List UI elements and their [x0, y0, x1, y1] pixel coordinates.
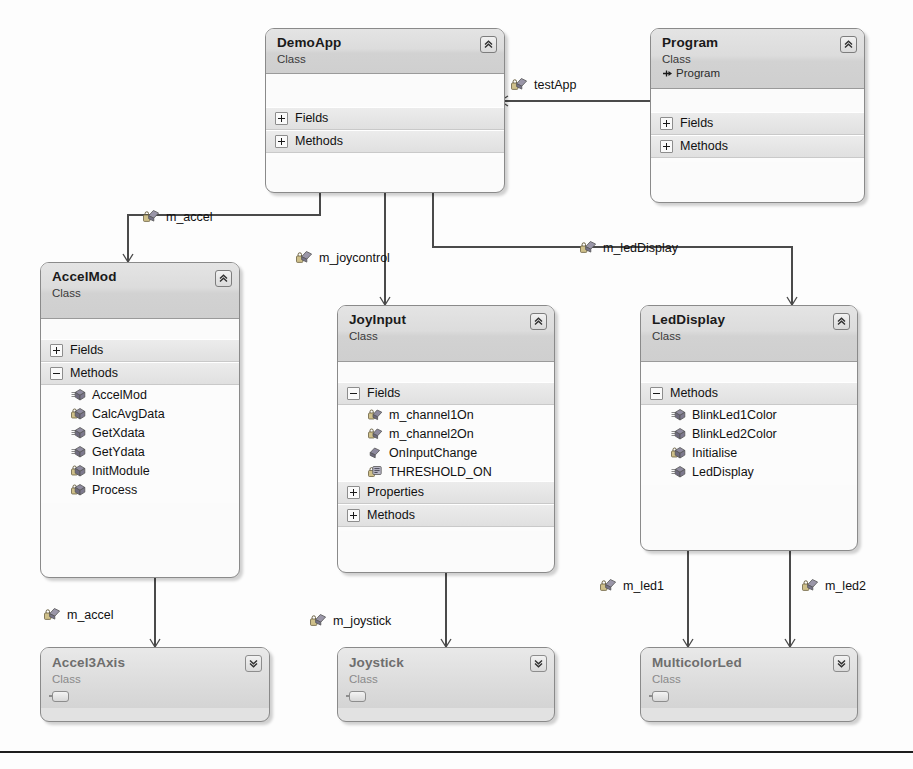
chevron-double-up-icon[interactable]	[480, 36, 497, 53]
class-box-accel3axis[interactable]: Accel3Axis Class	[40, 647, 270, 722]
chevron-double-down-icon[interactable]	[245, 655, 262, 672]
chevron-double-up-icon[interactable]	[215, 270, 232, 287]
member-row[interactable]: CalcAvgData	[41, 404, 239, 423]
class-header-leddisplay[interactable]: LedDisplay Class	[641, 306, 857, 362]
class-base-program: Program	[662, 66, 855, 81]
compartment-label: Methods	[70, 366, 118, 381]
chevron-double-down-icon[interactable]	[833, 655, 850, 672]
compartment-fields-program[interactable]: Fields	[651, 112, 864, 135]
association-label-m-accel-top[interactable]: m_accel	[143, 209, 214, 224]
private-field-icon	[368, 427, 383, 441]
private-method-icon	[71, 483, 86, 497]
class-name-leddisplay: LedDisplay	[652, 312, 848, 328]
plus-icon[interactable]	[50, 344, 63, 357]
compartment-methods-joyinput[interactable]: Methods	[338, 504, 554, 527]
compartment-label: Fields	[367, 386, 400, 401]
chevron-double-up-icon[interactable]	[833, 313, 850, 330]
association-label-text: m_accel	[165, 210, 214, 224]
class-header-demoapp[interactable]: DemoApp Class	[266, 29, 504, 74]
association-label-text: m_joycontrol	[318, 251, 391, 265]
member-row[interactable]: m_channel1On	[338, 405, 554, 424]
class-box-multicolorled[interactable]: MulticolorLed Class	[640, 647, 858, 722]
class-name-joyinput: JoyInput	[349, 312, 545, 328]
compartment-label: Methods	[680, 139, 728, 154]
class-header-accel3axis[interactable]: Accel3Axis Class	[41, 648, 269, 708]
hidden-members-indicator-icon[interactable]	[52, 691, 69, 702]
class-name-multicolorled: MulticolorLed	[652, 655, 848, 671]
compartment-fields-accelmod[interactable]: Fields	[41, 339, 239, 362]
member-label: Process	[92, 482, 137, 498]
association-label-m-accel-bottom[interactable]: m_accel	[44, 607, 115, 622]
member-row[interactable]: Process	[41, 480, 239, 499]
association-label-text: m_joystick	[332, 614, 392, 628]
class-header-multicolorled[interactable]: MulticolorLed Class	[641, 648, 857, 708]
class-kind-accelmod: Class	[52, 286, 230, 300]
compartment-fields-demoapp[interactable]: Fields	[266, 107, 504, 130]
association-label-text: m_accel	[66, 608, 115, 622]
association-label-m-led1[interactable]: m_led1	[600, 578, 665, 593]
chevron-double-up-icon[interactable]	[530, 313, 547, 330]
hidden-members-indicator-icon[interactable]	[652, 691, 669, 702]
class-box-joyinput[interactable]: JoyInput Class Fields	[337, 305, 555, 573]
class-box-accelmod[interactable]: AccelMod Class Fields Methods	[40, 262, 240, 578]
member-row[interactable]: InitModule	[41, 461, 239, 480]
compartment-fields-joyinput[interactable]: Fields	[338, 382, 554, 405]
public-method-icon	[671, 427, 686, 441]
member-row[interactable]: GetXdata	[41, 423, 239, 442]
minus-icon[interactable]	[50, 367, 63, 380]
member-label: m_channel2On	[389, 426, 474, 442]
member-label: BlinkLed2Color	[692, 426, 777, 442]
private-field-icon	[580, 240, 597, 255]
member-row[interactable]: LedDisplay	[641, 462, 857, 481]
compartment-methods-demoapp[interactable]: Methods	[266, 130, 504, 153]
class-header-joystick[interactable]: Joystick Class	[338, 648, 554, 708]
compartment-methods-leddisplay[interactable]: Methods	[641, 382, 857, 405]
association-label-m-led2[interactable]: m_led2	[802, 578, 867, 593]
member-label: GetYdata	[92, 444, 145, 460]
class-name-demoapp: DemoApp	[277, 35, 495, 51]
class-header-joyinput[interactable]: JoyInput Class	[338, 306, 554, 362]
class-box-joystick[interactable]: Joystick Class	[337, 647, 555, 722]
member-row[interactable]: m_channel2On	[338, 424, 554, 443]
class-box-leddisplay[interactable]: LedDisplay Class Methods	[640, 305, 858, 551]
hidden-members-indicator-icon[interactable]	[349, 691, 366, 702]
member-row[interactable]: GetYdata	[41, 442, 239, 461]
class-box-program[interactable]: Program Class Program Fields	[650, 28, 865, 203]
member-row[interactable]: THRESHOLD_ON	[338, 462, 554, 481]
public-method-icon	[71, 388, 86, 402]
compartment-properties-joyinput[interactable]: Properties	[338, 481, 554, 504]
plus-icon[interactable]	[660, 140, 673, 153]
public-method-icon	[71, 426, 86, 440]
class-diagram-canvas[interactable]: DemoApp Class Fields Methods Program Cla…	[0, 0, 913, 769]
public-method-icon	[671, 465, 686, 479]
member-label: BlinkLed1Color	[692, 407, 777, 423]
plus-icon[interactable]	[347, 509, 360, 522]
compartment-methods-accelmod[interactable]: Methods	[41, 362, 239, 385]
plus-icon[interactable]	[347, 486, 360, 499]
association-label-m-joystick[interactable]: m_joystick	[310, 613, 392, 628]
minus-icon[interactable]	[347, 387, 360, 400]
association-label-m-leddisplay[interactable]: m_ledDisplay	[580, 240, 679, 255]
minus-icon[interactable]	[650, 387, 663, 400]
member-label: Initialise	[692, 445, 737, 461]
compartment-methods-program[interactable]: Methods	[651, 135, 864, 158]
member-row[interactable]: AccelMod	[41, 385, 239, 404]
plus-icon[interactable]	[660, 117, 673, 130]
class-box-demoapp[interactable]: DemoApp Class Fields Methods	[265, 28, 505, 193]
chevron-double-up-icon[interactable]	[840, 36, 857, 53]
class-header-program[interactable]: Program Class Program	[651, 29, 864, 89]
member-row[interactable]: Initialise	[641, 443, 857, 462]
member-row[interactable]: BlinkLed2Color	[641, 424, 857, 443]
plus-icon[interactable]	[275, 112, 288, 125]
class-header-accelmod[interactable]: AccelMod Class	[41, 263, 239, 319]
class-kind-multicolorled: Class	[652, 672, 848, 686]
association-label-m-joycontrol[interactable]: m_joycontrol	[296, 250, 391, 265]
chevron-double-down-icon[interactable]	[530, 655, 547, 672]
member-row[interactable]: BlinkLed1Color	[641, 405, 857, 424]
member-row[interactable]: OnInputChange	[338, 443, 554, 462]
plus-icon[interactable]	[275, 135, 288, 148]
compartment-label: Properties	[367, 485, 424, 500]
association-label-testapp[interactable]: testApp	[511, 77, 577, 92]
member-label: THRESHOLD_ON	[389, 464, 492, 480]
compartment-label: Fields	[680, 116, 713, 131]
